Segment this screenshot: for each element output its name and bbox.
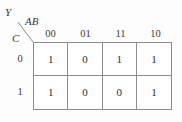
column-header-01: 01 [68,28,103,40]
output-variable-label: Y [5,7,11,18]
row-header-1: 1 [13,86,27,98]
row-variable-label: C [12,33,19,44]
kmap-cell-r0c3: 1 [137,43,171,76]
kmap-cell-r0c2: 1 [103,43,137,76]
kmap-cell-r1c3: 1 [137,76,171,109]
kmap-cell-r0c0: 1 [34,43,68,76]
kmap-cell-r1c1: 0 [68,76,102,109]
column-variable-label: AB [25,16,38,27]
row-header-0: 0 [13,53,27,65]
kmap-grid: 1 0 1 1 1 0 0 1 [33,42,172,110]
column-header-10: 10 [138,28,173,40]
karnaugh-map: Y AB C 00 01 11 10 0 1 1 0 1 1 1 0 0 1 [0,0,182,122]
kmap-cell-r1c2: 0 [103,76,137,109]
kmap-cell-r1c0: 1 [34,76,68,109]
kmap-cell-r0c1: 0 [68,43,102,76]
column-header-00: 00 [33,28,68,40]
column-header-11: 11 [103,28,138,40]
